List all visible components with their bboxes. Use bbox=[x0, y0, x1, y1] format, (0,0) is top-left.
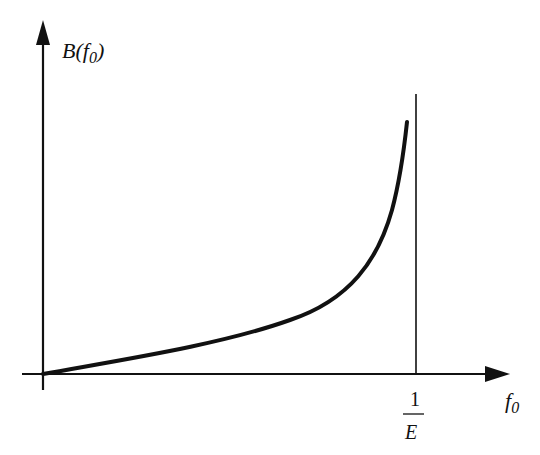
curve-b-f0 bbox=[43, 122, 407, 374]
diagram-canvas: B(f0) f0 1 E bbox=[0, 0, 540, 455]
y-axis-label: B(f0) bbox=[62, 38, 104, 66]
x-axis-arrow-icon bbox=[485, 366, 510, 382]
y-axis-arrow-icon bbox=[36, 20, 50, 45]
asymptote-denominator: E bbox=[404, 421, 417, 443]
asymptote-numerator: 1 bbox=[410, 388, 420, 410]
x-axis-label: f0 bbox=[505, 388, 519, 416]
